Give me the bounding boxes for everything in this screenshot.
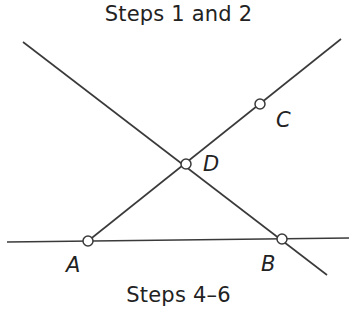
- caption-steps-4-6: Steps 4–6: [0, 283, 357, 307]
- point-c-marker: [255, 99, 265, 109]
- point-c-label: C: [276, 108, 291, 132]
- point-a-marker: [83, 236, 93, 246]
- points: [83, 99, 287, 246]
- point-a-label: A: [64, 253, 80, 277]
- point-d-marker: [181, 159, 191, 169]
- geometry-diagram: ABCD: [0, 0, 357, 315]
- point-labels: ABCD: [64, 108, 291, 277]
- point-b-label: B: [261, 252, 275, 276]
- lines: [7, 39, 349, 275]
- point-d-label: D: [203, 152, 219, 176]
- line-adc: [88, 39, 341, 241]
- line-ab: [7, 238, 349, 242]
- point-b-marker: [277, 234, 287, 244]
